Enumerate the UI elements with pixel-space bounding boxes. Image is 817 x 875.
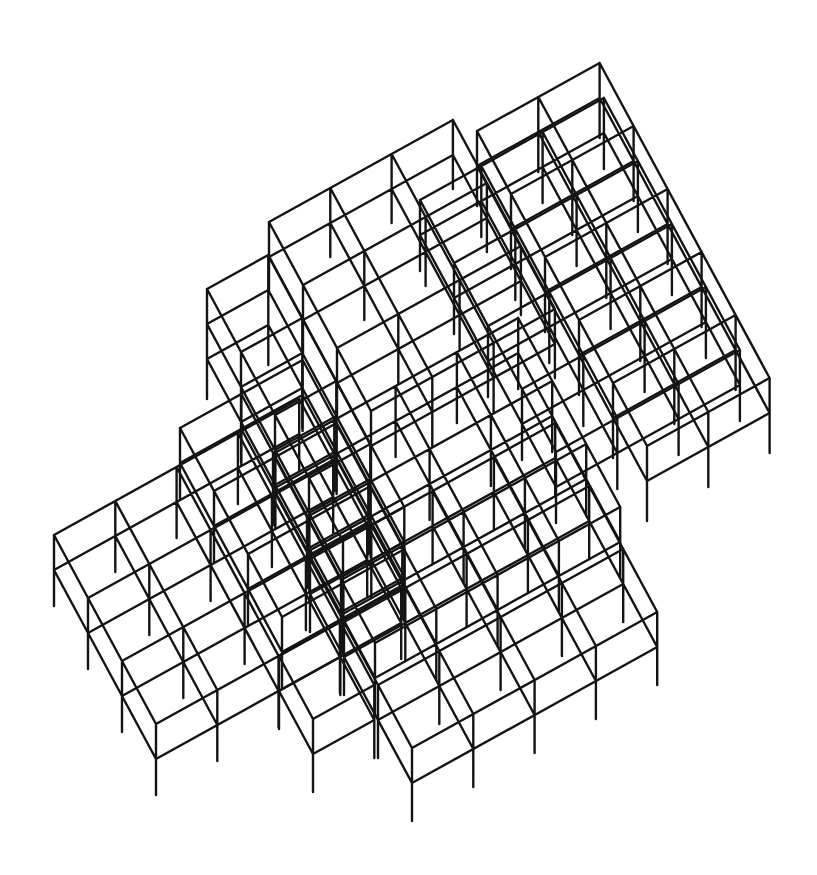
structural-frame-drawing (0, 0, 817, 875)
frame-diagram (0, 0, 817, 875)
